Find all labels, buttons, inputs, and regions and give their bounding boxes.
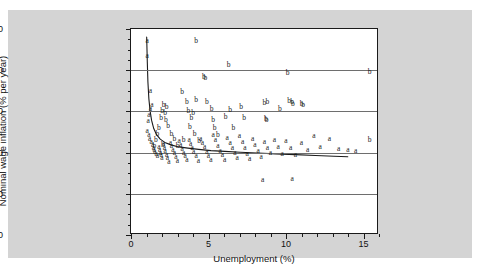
y-tick-label-0: 0 xyxy=(0,148,3,158)
plot-area: aaaaaaaaaaaaaaaaaaaaaaaaaaaaaaaaaaaaaaaa… xyxy=(130,28,378,234)
x-tick-minor xyxy=(240,234,241,237)
x-tick-minor xyxy=(379,234,380,237)
y-tick-label--10: -10 xyxy=(0,189,3,199)
x-tick-minor xyxy=(147,234,148,237)
y-tick-label--20: -20 xyxy=(0,230,3,240)
x-axis-title: Unemployment (%) xyxy=(130,253,378,264)
x-tick-minor xyxy=(178,234,179,237)
x-tick-minor xyxy=(224,234,225,237)
x-tick-label-5: 5 xyxy=(206,239,211,249)
x-tick-label-0: 0 xyxy=(128,239,133,249)
x-tick-label-10: 10 xyxy=(281,239,291,249)
x-tick-minor xyxy=(162,234,163,237)
x-tick-minor xyxy=(193,234,194,237)
chart-plot-wrapper: Nominal wage inflation (% per year) aaaa… xyxy=(8,10,472,258)
x-axis-ticks: 051015 xyxy=(131,29,377,233)
x-tick-minor xyxy=(302,234,303,237)
y-tick-label-10: 10 xyxy=(0,106,3,116)
figure-panel: Nominal wage inflation (% per year) aaaa… xyxy=(8,10,472,258)
x-tick-minor xyxy=(317,234,318,237)
x-tick-label-15: 15 xyxy=(358,239,368,249)
x-tick-minor xyxy=(271,234,272,237)
x-tick-minor xyxy=(255,234,256,237)
y-tick-label-30: 30 xyxy=(0,24,3,34)
y-tick-label-20: 20 xyxy=(0,65,3,75)
x-tick-minor xyxy=(333,234,334,237)
y-axis-title: Nominal wage inflation (% per year) xyxy=(0,56,8,206)
x-tick-minor xyxy=(348,234,349,237)
